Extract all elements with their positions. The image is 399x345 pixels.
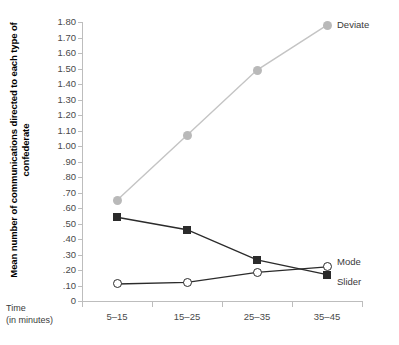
- data-point-deviate: [253, 66, 262, 75]
- y-axis-tick-label: .20: [36, 264, 76, 275]
- y-axis-tick-label: 0: [36, 295, 76, 306]
- x-axis-tick: [222, 301, 223, 307]
- y-axis-tick-label: 1.50: [36, 63, 76, 74]
- y-axis-tick-label: .90: [36, 156, 76, 167]
- y-axis-tick-label: 1.10: [36, 125, 76, 136]
- series-lines: [82, 22, 362, 301]
- data-point-deviate: [183, 131, 192, 140]
- data-point-slider: [183, 226, 191, 234]
- x-axis-tick-label: 25–35: [217, 311, 297, 322]
- data-point-mode: [323, 262, 332, 271]
- data-point-mode: [113, 279, 122, 288]
- x-axis-tick-label: 35–45: [287, 311, 367, 322]
- data-point-mode: [253, 268, 262, 277]
- series-label-mode: Mode: [337, 256, 361, 267]
- series-line-slider: [117, 217, 327, 274]
- series-label-deviate: Deviate: [337, 19, 369, 30]
- y-axis-tick-label: .70: [36, 187, 76, 198]
- y-axis-tick-label: 1.00: [36, 140, 76, 151]
- y-axis-title: Mean number of communications directed t…: [0, 0, 40, 300]
- x-axis-tick: [292, 301, 293, 307]
- y-axis-title-text: Mean number of communications directed t…: [8, 0, 32, 300]
- data-point-slider: [113, 213, 121, 221]
- data-point-mode: [183, 278, 192, 287]
- x-axis-tick-label: 5–15: [77, 311, 157, 322]
- x-axis-title: Time (in minutes): [6, 303, 80, 326]
- plot-area: 1.801.701.601.501.401.301.201.101.00.90.…: [82, 22, 362, 301]
- y-axis-tick-label: .40: [36, 233, 76, 244]
- x-axis-tick: [152, 301, 153, 307]
- series-line-mode: [117, 267, 327, 284]
- x-axis-tick: [362, 301, 363, 307]
- y-axis-tick-label: .80: [36, 171, 76, 182]
- y-axis-tick-label: .10: [36, 280, 76, 291]
- y-axis-tick-label: .30: [36, 249, 76, 260]
- data-point-deviate: [323, 21, 332, 30]
- y-axis-tick-label: 1.30: [36, 94, 76, 105]
- y-axis-tick-label: 1.70: [36, 32, 76, 43]
- x-axis-tick-label: 15–25: [147, 311, 227, 322]
- x-axis-title-line1: Time: [6, 303, 26, 313]
- data-point-slider: [253, 256, 261, 264]
- y-axis-tick-label: 1.20: [36, 109, 76, 120]
- y-axis-tick-label: 1.40: [36, 78, 76, 89]
- x-axis-tick: [82, 301, 83, 307]
- y-axis-tick-label: .60: [36, 202, 76, 213]
- series-line-deviate: [117, 25, 327, 200]
- y-axis-tick-label: 1.80: [36, 16, 76, 27]
- data-point-deviate: [113, 196, 122, 205]
- y-axis-tick-label: .50: [36, 218, 76, 229]
- series-label-slider: Slider: [337, 276, 361, 287]
- y-axis-tick-label: 1.60: [36, 47, 76, 58]
- data-point-slider: [323, 271, 331, 279]
- chart-figure: Mean number of communications directed t…: [0, 0, 399, 345]
- x-axis-title-line2: (in minutes): [6, 315, 80, 327]
